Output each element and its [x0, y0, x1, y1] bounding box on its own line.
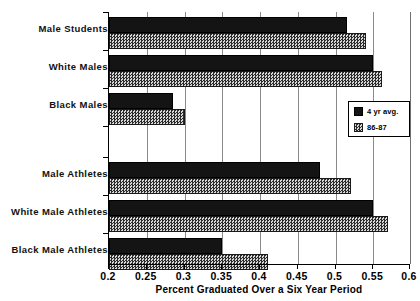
y-axis-tick	[103, 126, 108, 127]
bar-black-males-4yr	[109, 93, 173, 109]
category-label-black-males: Black Males	[49, 100, 108, 110]
x-axis-tick	[221, 264, 222, 269]
bar-chart: Male Students White Males Black Males Ma…	[0, 0, 420, 301]
x-tick-label: 0.3	[176, 270, 192, 282]
y-axis-tick	[103, 157, 108, 158]
gridline-0.6	[410, 12, 411, 264]
y-axis-tick	[103, 50, 108, 51]
bar-male-athletes-8687	[109, 178, 351, 194]
x-axis-title: Percent Graduated Over a Six Year Period	[108, 284, 410, 295]
x-axis-tick	[146, 264, 147, 269]
legend-item-4yr-avg: 4 yr avg.	[354, 105, 398, 117]
x-axis-tick	[297, 264, 298, 269]
x-tick-label: 0.35	[210, 270, 232, 282]
category-label-male-athletes: Male Athletes	[42, 169, 108, 179]
bar-white-males-8687	[109, 71, 382, 87]
x-tick-label: 0.2	[100, 270, 116, 282]
category-label-white-male-athletes: White Male Athletes	[11, 207, 108, 217]
x-axis-tick	[108, 264, 109, 269]
x-axis-tick	[184, 264, 185, 269]
legend-item-86-87: 86-87	[354, 121, 387, 133]
legend-label: 4 yr avg.	[367, 107, 398, 116]
y-axis-tick	[103, 88, 108, 89]
bar-white-male-athletes-8687	[109, 216, 388, 232]
y-axis-tick	[103, 12, 108, 13]
bar-black-males-8687	[109, 109, 185, 125]
category-label-black-male-athletes: Black Male Athletes	[12, 245, 108, 255]
x-axis-tick	[335, 264, 336, 269]
bar-black-male-athletes-4yr	[109, 238, 222, 254]
x-axis-tick	[372, 264, 373, 269]
x-tick-label: 0.6	[401, 270, 417, 282]
x-axis-tick	[259, 264, 260, 269]
bar-male-athletes-4yr	[109, 162, 320, 178]
x-axis-tick	[409, 264, 410, 269]
bar-white-male-athletes-4yr	[109, 200, 373, 216]
bar-male-students-8687	[109, 33, 366, 49]
x-tick-label: 0.55	[361, 270, 383, 282]
bar-male-students-4yr	[109, 17, 347, 33]
x-tick-label: 0.25	[135, 270, 157, 282]
x-tick-label: 0.4	[251, 270, 267, 282]
x-tick-label: 0.45	[286, 270, 308, 282]
category-label-white-males: White Males	[49, 62, 108, 72]
plot-area	[108, 12, 410, 264]
y-axis-tick	[103, 195, 108, 196]
category-label-male-students: Male Students	[38, 24, 108, 34]
legend-swatch-checkered-icon	[354, 123, 363, 132]
bar-black-male-athletes-8687	[109, 254, 268, 270]
chart-legend: 4 yr avg. 86-87	[348, 101, 410, 137]
x-tick-label: 0.5	[327, 270, 343, 282]
legend-swatch-solid-icon	[354, 107, 363, 116]
legend-label: 86-87	[367, 123, 387, 132]
y-axis-tick	[103, 233, 108, 234]
bar-white-males-4yr	[109, 55, 373, 71]
